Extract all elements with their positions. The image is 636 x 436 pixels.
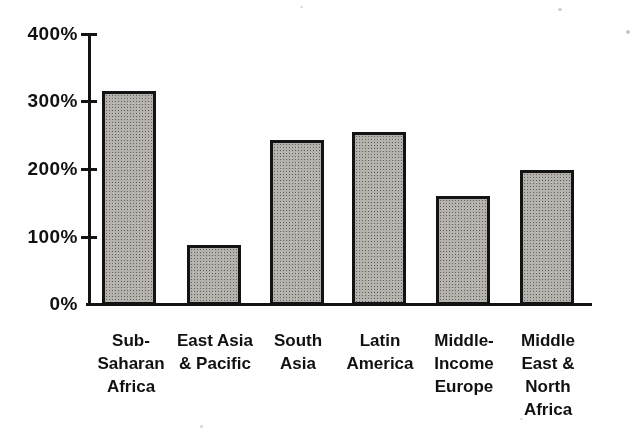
x-axis-label-sub-saharan-africa: Sub- Saharan Africa [85,329,177,398]
bar-latin-america [352,132,406,305]
y-axis-label-400: 400% [14,23,78,45]
y-axis-tick-100 [81,236,97,239]
scan-speck [300,6,303,8]
bar-south-asia [270,140,324,305]
bar-chart: 400% 300% 200% 100% 0% Sub- Saharan Afri… [0,0,636,436]
y-axis-tick-200 [81,168,97,171]
scan-speck [200,425,203,428]
y-axis-label-100: 100% [14,226,78,248]
y-axis-label-200: 200% [14,158,78,180]
y-axis-label-300: 300% [14,90,78,112]
x-axis-label-middle-income-europe: Middle- Income Europe [418,329,510,398]
bar-middle-east-north-africa [520,170,574,305]
bar-middle-income-europe [436,196,490,305]
x-axis-label-south-asia: South Asia [252,329,344,375]
x-axis-label-middle-east-north-africa: Middle East & North Africa [502,329,594,421]
y-axis-tick-300 [81,100,97,103]
bar-east-asia-pacific [187,245,241,305]
bar-sub-saharan-africa [102,91,156,305]
y-axis-label-0: 0% [14,293,78,315]
scan-speck [558,8,562,11]
y-axis-tick-400 [81,33,97,36]
x-axis-label-east-asia-pacific: East Asia & Pacific [169,329,261,375]
scan-speck [520,418,523,420]
x-axis-label-latin-america: Latin America [334,329,426,375]
x-axis-line [86,303,592,306]
scan-speck [626,30,630,34]
